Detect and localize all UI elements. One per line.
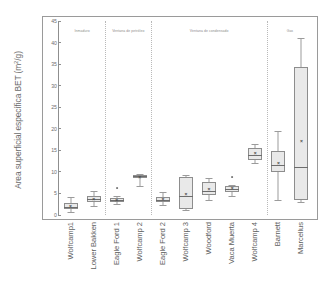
x-axis-category-label: Wolfcamp1	[65, 222, 74, 259]
y-axis-tick-label: 25	[51, 103, 57, 111]
whisker-cap-upper	[67, 197, 74, 198]
y-axis-tick-label: 30	[51, 82, 57, 90]
y-axis-tick-label: 20	[51, 125, 57, 133]
whisker-cap-lower	[298, 202, 305, 203]
whisker-cap-lower	[229, 196, 236, 197]
x-axis-category-label: Woodford	[204, 222, 213, 254]
y-axis-title: Area superficial específica BET (m2/g)	[6, 20, 30, 220]
y-axis-tick-label: 35	[51, 60, 57, 68]
boxplot-figure: Area superficial específica BET (m2/g) 4…	[0, 0, 334, 306]
x-axis-category-label: Barnett	[273, 222, 282, 246]
mean-marker: ×	[253, 150, 258, 155]
outlier-point	[116, 187, 118, 189]
whisker-cap-upper	[90, 191, 97, 192]
mean-marker: ×	[68, 204, 73, 209]
x-axis-category-label: Wolfcamp 3	[181, 222, 190, 261]
boxplot-barnett[interactable]: ×	[267, 21, 289, 215]
x-axis-category-label: Wolfcamp 4	[250, 222, 259, 261]
x-axis-label-wrap: Barnett	[272, 222, 282, 306]
y-axis-title-tail: /g)	[13, 51, 23, 60]
x-axis-category-label: Marcellus	[296, 222, 305, 254]
boxplot-wolfcamp1[interactable]: ×	[60, 21, 82, 215]
x-axis-label-wrap: Vaca Muerta	[226, 222, 236, 306]
x-axis-category-label: Eagle Ford 1	[111, 222, 120, 265]
whisker-cap-upper	[159, 192, 166, 193]
whisker-lower	[278, 172, 279, 200]
whisker-cap-lower	[159, 205, 166, 206]
y-axis-tick-label: 15	[51, 146, 57, 154]
x-axis-category-label: Eagle Ford 2	[157, 222, 166, 265]
y-axis-title-text: Area superficial específica BET (m2/g)	[13, 51, 24, 189]
mean-marker: ×	[230, 185, 235, 190]
y-axis-title-superscript: 2	[13, 61, 19, 64]
boxplot-marcellus[interactable]: ×	[290, 21, 312, 215]
mean-marker: ×	[160, 197, 165, 202]
plot-inner: 454035302520151050 InmaduroVentana de pe…	[43, 17, 317, 219]
plot-data-area: InmaduroVentana de petróleoVentana de co…	[59, 21, 313, 215]
x-axis-label-wrap: Wolfcamp 3	[180, 222, 190, 306]
mean-marker: ×	[91, 196, 96, 201]
whisker-cap-lower	[113, 204, 120, 205]
x-axis-label-wrap: Eagle Ford 1	[111, 222, 121, 306]
whisker-cap-lower	[252, 163, 259, 164]
box-iqr	[294, 67, 308, 200]
plot-frame: 454035302520151050 InmaduroVentana de pe…	[42, 16, 318, 220]
x-axis-category-labels: Wolfcamp1Lower BakkenEagle Ford 1Wolfcam…	[42, 222, 318, 306]
x-axis-label-wrap: Wolfcamp 2	[134, 222, 144, 306]
whisker-cap-upper	[298, 38, 305, 39]
boxplot-eagle-ford-1[interactable]: ×	[106, 21, 128, 215]
mean-marker: ×	[184, 192, 189, 197]
boxplot-eagle-ford-2[interactable]: ×	[152, 21, 174, 215]
y-axis-tick-label: 40	[51, 39, 57, 47]
whisker-upper	[278, 131, 279, 150]
x-axis-category-label: Vaca Muerta	[227, 222, 236, 264]
whisker-cap-upper	[206, 178, 213, 179]
x-axis-category-label: Wolfcamp 2	[134, 222, 143, 261]
whisker-cap-lower	[206, 200, 213, 201]
whisker-cap-lower	[90, 206, 97, 207]
x-axis-label-wrap: Woodford	[203, 222, 213, 306]
whisker-cap-lower	[275, 200, 282, 201]
whisker-upper	[301, 38, 302, 66]
x-axis-label-wrap: Marcellus	[295, 222, 305, 306]
y-axis-tick-label: 10	[51, 168, 57, 176]
whisker-cap-lower	[183, 210, 190, 211]
whisker-cap-upper	[252, 144, 259, 145]
y-axis-tick-label: 45	[51, 17, 57, 25]
y-axis-tick-label: 0	[54, 211, 57, 219]
median-line	[294, 167, 308, 168]
outlier-point	[231, 176, 233, 178]
boxplot-wolfcamp-4[interactable]: ×	[244, 21, 266, 215]
boxplot-lower-bakken[interactable]: ×	[83, 21, 105, 215]
mean-marker: ×	[276, 161, 281, 166]
boxplot-vaca-muerta[interactable]: ×	[221, 21, 243, 215]
mean-marker: ×	[299, 139, 304, 144]
x-axis-label-wrap: Wolfcamp 4	[249, 222, 259, 306]
y-axis-title-main: Area superficial específica BET (m	[13, 64, 23, 189]
whisker-cap-upper	[275, 131, 282, 132]
mean-marker: ×	[207, 186, 212, 191]
y-axis-tick-label: 5	[54, 189, 57, 197]
boxplot-woodford[interactable]: ×	[198, 21, 220, 215]
whisker-cap-lower	[67, 212, 74, 213]
x-axis-label-wrap: Eagle Ford 2	[157, 222, 167, 306]
mean-marker: ×	[137, 175, 142, 180]
boxplot-wolfcamp-3[interactable]: ×	[175, 21, 197, 215]
boxplot-wolfcamp-2[interactable]: ×	[129, 21, 151, 215]
x-axis-label-wrap: Wolfcamp1	[65, 222, 75, 306]
x-axis-label-wrap: Lower Bakken	[88, 222, 98, 306]
whisker-cap-lower	[136, 186, 143, 187]
mean-marker: ×	[114, 197, 119, 202]
x-axis-category-label: Lower Bakken	[88, 222, 97, 270]
